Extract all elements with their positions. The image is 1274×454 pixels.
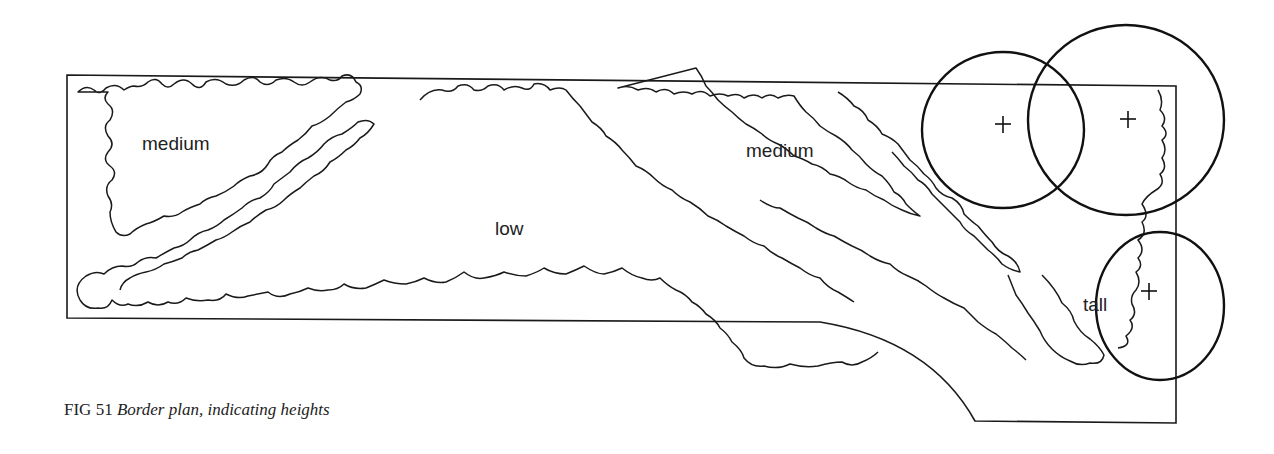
zone-low-top-outline <box>420 84 854 302</box>
tree-canopy-3 <box>1096 232 1224 380</box>
border-plan-drawing <box>0 0 1274 454</box>
zone-label-medium-left: medium <box>142 133 210 155</box>
strip-left <box>77 120 374 300</box>
zone-medium-left-outline <box>78 75 361 236</box>
strip-right-lower <box>760 200 1026 360</box>
tree-canopy-2 <box>1028 25 1224 215</box>
tree-marker-1-icon <box>995 116 1011 133</box>
zone-label-tall: tall <box>1083 294 1107 316</box>
tree-marker-2-icon <box>1120 111 1136 128</box>
zone-label-low: low <box>495 218 524 240</box>
zone-low-bottom-outline <box>80 266 878 368</box>
tree-marker-3-icon <box>1141 283 1157 300</box>
figure-caption: FIG 51 Border plan, indicating heights <box>64 400 330 420</box>
figure-title: Border plan, indicating heights <box>117 400 330 419</box>
strip-right-upper <box>838 92 1020 272</box>
zone-label-medium-right: medium <box>746 140 814 162</box>
tall-zone-outline <box>1008 90 1166 365</box>
figure-number: FIG 51 <box>64 400 113 419</box>
border-outline <box>67 75 1176 423</box>
